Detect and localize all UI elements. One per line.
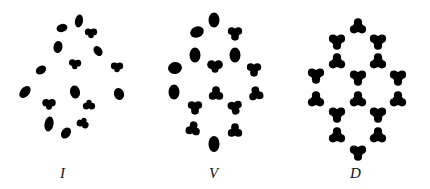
particle [59,126,73,141]
panel-label-v: V [209,166,218,181]
particle [329,35,345,50]
particle [247,63,261,76]
particle [43,116,54,132]
particle [111,62,123,72]
particle [92,44,105,58]
particle [185,120,201,136]
particle [350,91,366,106]
particle [329,53,345,68]
particle [207,60,223,72]
particle [370,127,386,142]
particle [329,108,345,123]
panel-d [308,18,406,161]
particle [188,24,205,40]
particle [167,61,183,75]
particle [53,40,64,53]
particle [228,27,242,40]
particle [68,59,81,70]
particle [308,91,324,106]
particle [69,85,81,100]
particle [83,100,95,110]
particle [248,85,264,101]
particle [308,69,324,84]
panel-label-i: I [60,166,65,181]
particle [350,18,366,33]
particle [230,48,241,63]
particle [209,86,223,99]
particle [350,71,366,86]
particle [227,100,243,116]
particle [74,14,84,28]
particle [85,28,97,38]
particle [209,13,220,28]
particle [112,87,126,102]
figure-canvas [0,0,430,189]
particle [188,101,202,114]
particle [228,123,242,136]
particle [209,136,220,152]
particle [390,71,406,86]
particle [169,85,180,100]
particle [370,108,386,123]
particle [17,84,33,101]
particle [329,127,345,142]
particle [370,35,386,50]
particle [390,91,406,106]
panel-v [167,13,264,153]
particle [190,48,201,63]
particle [42,99,55,110]
particle [34,64,48,76]
particle [350,146,366,161]
particle [56,23,69,34]
particle [76,116,91,129]
panel-i [17,14,126,141]
particle [370,53,386,68]
panel-label-d: D [350,166,361,181]
